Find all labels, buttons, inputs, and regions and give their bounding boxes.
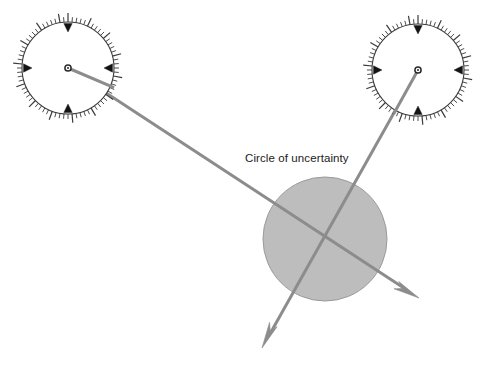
compass-tick [13,63,22,64]
compass-rose-right-hub-center [417,69,419,71]
compass-tick [363,65,372,66]
compass-tick [422,116,423,125]
uncertainty-circle-shape [263,177,387,301]
circle-of-uncertainty-label: Circle of uncertainty [245,152,349,164]
diagram-labels: Circle of uncertainty [245,152,349,164]
triangulation-diagram: Circle of uncertainty [0,0,489,368]
diagram-canvas: Circle of uncertainty [0,0,489,368]
circle-of-uncertainty [263,177,387,301]
compass-rose-left-hub-center [67,67,69,69]
compass-tick [72,114,73,123]
